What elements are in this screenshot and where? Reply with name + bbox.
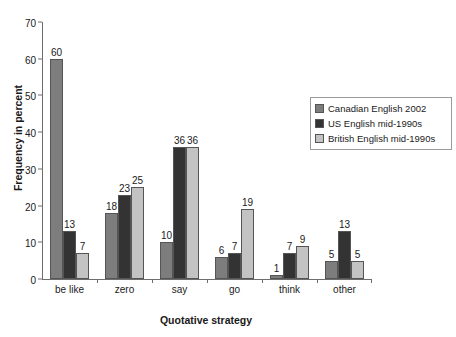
bar-value-label: 7 — [287, 241, 293, 252]
y-axis-tick-label: 0 — [30, 275, 42, 286]
bar[interactable]: 36 — [173, 147, 186, 279]
bar-value-label: 7 — [232, 241, 238, 252]
bar-group: 179think — [262, 22, 317, 279]
bar-group-bars: 60137 — [42, 22, 97, 279]
bar[interactable]: 13 — [338, 231, 351, 279]
bar-value-label: 19 — [242, 197, 253, 208]
x-axis-category-label: think — [262, 284, 317, 295]
bar-value-label: 23 — [119, 183, 130, 194]
bar-group-bars: 179 — [262, 22, 317, 279]
y-axis-tick-label: 40 — [25, 128, 42, 139]
bar-value-label: 18 — [106, 201, 117, 212]
bar[interactable]: 18 — [105, 213, 118, 279]
legend-label: Canadian English 2002 — [328, 103, 426, 114]
bar-group: 182325zero — [97, 22, 152, 279]
y-axis-title: Frequency in percent — [11, 28, 25, 248]
bar[interactable]: 25 — [131, 187, 144, 279]
bar-group-bars: 103636 — [152, 22, 207, 279]
bar-value-label: 9 — [300, 234, 306, 245]
bar-value-label: 1 — [274, 263, 280, 274]
x-axis-category-label: be like — [42, 284, 97, 295]
bar[interactable]: 6 — [215, 257, 228, 279]
bar-value-label: 6 — [219, 245, 225, 256]
bar[interactable]: 5 — [325, 261, 338, 279]
legend-item[interactable]: US English mid-1990s — [315, 116, 447, 130]
bar-group: 6719go — [207, 22, 262, 279]
bar[interactable]: 9 — [296, 246, 309, 279]
x-axis-tick-mark — [371, 279, 372, 283]
y-axis-tick-label: 60 — [25, 55, 42, 66]
bar[interactable]: 13 — [63, 231, 76, 279]
bar-chart-figure: Frequency in percent 0102030405060706013… — [0, 0, 456, 337]
bar-group: 5135other — [317, 22, 372, 279]
x-axis-tick-mark — [152, 279, 153, 283]
x-axis-tick-mark — [207, 279, 208, 283]
bar-value-label: 36 — [187, 135, 198, 146]
bar-group-bars: 5135 — [317, 22, 372, 279]
y-axis-tick-label: 30 — [25, 165, 42, 176]
legend-swatch-icon — [315, 134, 324, 143]
x-axis-category-label: go — [207, 284, 262, 295]
legend-item[interactable]: Canadian English 2002 — [315, 101, 447, 115]
legend-label: British English mid-1990s — [328, 133, 435, 144]
bar[interactable]: 10 — [160, 242, 173, 279]
bar[interactable]: 5 — [351, 261, 364, 279]
bar[interactable]: 1 — [270, 275, 283, 279]
bar[interactable]: 36 — [186, 147, 199, 279]
legend-item[interactable]: British English mid-1990s — [315, 131, 447, 145]
y-axis-tick-label: 10 — [25, 238, 42, 249]
y-axis-tick-label: 20 — [25, 202, 42, 213]
bar[interactable]: 7 — [283, 253, 296, 279]
legend-swatch-icon — [315, 104, 324, 113]
chart-legend: Canadian English 2002 US English mid-199… — [310, 97, 452, 150]
bar[interactable]: 19 — [241, 209, 254, 279]
bar-value-label: 7 — [80, 241, 86, 252]
x-axis-tick-mark — [97, 279, 98, 283]
x-axis-category-label: zero — [97, 284, 152, 295]
bar[interactable]: 23 — [118, 195, 131, 279]
bar-value-label: 5 — [329, 249, 335, 260]
bar-group: 103636say — [152, 22, 207, 279]
bar[interactable]: 7 — [76, 253, 89, 279]
x-axis-category-label: say — [152, 284, 207, 295]
x-axis-title: Quotative strategy — [40, 314, 372, 326]
bar-value-label: 36 — [174, 135, 185, 146]
bar-group-bars: 6719 — [207, 22, 262, 279]
x-axis-category-label: other — [317, 284, 372, 295]
legend-label: US English mid-1990s — [328, 118, 422, 129]
bar[interactable]: 7 — [228, 253, 241, 279]
plot-area: 01020304050607060137be like182325zero103… — [42, 22, 372, 279]
legend-swatch-icon — [315, 119, 324, 128]
bar-value-label: 13 — [64, 219, 75, 230]
bar-value-label: 10 — [161, 230, 172, 241]
y-axis-tick-label: 70 — [25, 18, 42, 29]
x-axis-tick-mark — [262, 279, 263, 283]
bar-value-label: 25 — [132, 175, 143, 186]
bar-value-label: 5 — [355, 249, 361, 260]
bar[interactable]: 60 — [50, 59, 63, 279]
bar-group: 60137be like — [42, 22, 97, 279]
bar-value-label: 13 — [339, 219, 350, 230]
x-axis-tick-mark — [317, 279, 318, 283]
bar-value-label: 60 — [51, 47, 62, 58]
bar-group-bars: 182325 — [97, 22, 152, 279]
y-axis-tick-label: 50 — [25, 91, 42, 102]
